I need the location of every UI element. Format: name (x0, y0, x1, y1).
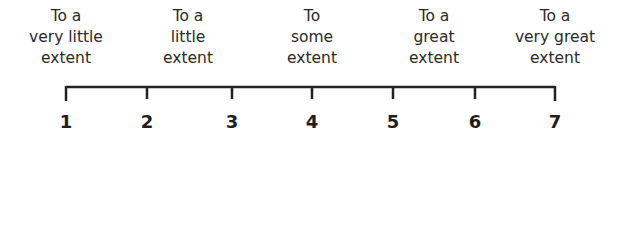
scale-number-7: 7 (540, 111, 570, 132)
scale-number-6: 6 (460, 111, 490, 132)
scale-number-4: 4 (297, 111, 327, 132)
scale-number-5: 5 (378, 111, 408, 132)
scale-number-3: 3 (217, 111, 247, 132)
scale-number-1: 1 (51, 111, 81, 132)
scale-number-2: 2 (132, 111, 162, 132)
